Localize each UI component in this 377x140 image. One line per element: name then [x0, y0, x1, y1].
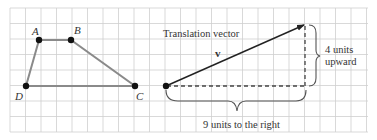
- vector-start-point: [163, 83, 169, 89]
- vertical-units-label-line1: 4 units: [325, 44, 353, 55]
- point-d: [23, 83, 29, 89]
- translation-vector-figure: Translation vector v 9 units to the righ…: [163, 25, 357, 130]
- vertical-brace: [309, 25, 320, 86]
- point-b: [68, 37, 74, 43]
- translation-vector-title: Translation vector: [163, 28, 240, 39]
- diagram-canvas: A B C D Translation vector v 9 units to …: [0, 0, 377, 140]
- vertical-units-label-line2: upward: [325, 56, 357, 67]
- quadrilateral-abcd: A B C D: [14, 24, 144, 102]
- vector-name-label: v: [215, 47, 221, 59]
- point-c: [132, 83, 138, 89]
- point-a: [36, 37, 42, 43]
- point-d-label: D: [14, 90, 23, 102]
- point-b-label: B: [74, 24, 81, 36]
- horizontal-units-label: 9 units to the right: [203, 119, 280, 130]
- horizontal-brace: [166, 90, 306, 111]
- point-a-label: A: [31, 25, 39, 37]
- point-c-label: C: [136, 90, 144, 102]
